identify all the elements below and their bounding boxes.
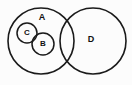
set-label-a: A	[39, 12, 46, 22]
set-label-d: D	[88, 34, 95, 44]
set-label-b: B	[40, 39, 46, 48]
venn-diagram: A C B D	[0, 0, 132, 85]
euler-diagram-canvas: A C B D	[0, 0, 132, 85]
set-label-c: C	[24, 28, 30, 37]
